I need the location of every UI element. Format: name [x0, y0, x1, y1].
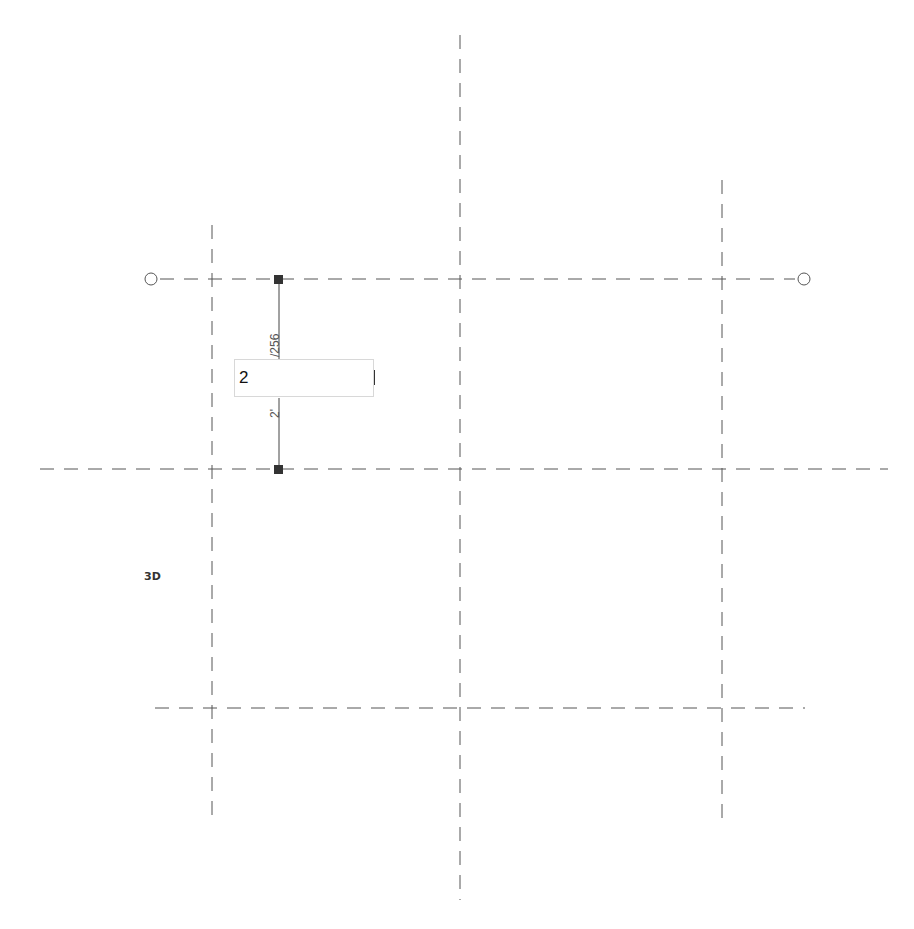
dimension-value-editor[interactable] [234, 359, 374, 397]
dimension-grip-bottom[interactable] [274, 465, 283, 474]
grid-lines [40, 35, 888, 900]
input-end-marker [374, 370, 375, 385]
dimension-value-input[interactable] [235, 360, 359, 396]
dimension-lower-text: 2' [268, 409, 282, 418]
drawing-canvas[interactable] [0, 0, 914, 929]
view-label-3d: 3D [144, 570, 161, 583]
grid-bubble-left[interactable] [145, 273, 157, 285]
dimension-upper-text: /256 [268, 334, 282, 357]
dimension-grip-top[interactable] [274, 275, 283, 284]
grid-bubble-right[interactable] [798, 273, 810, 285]
